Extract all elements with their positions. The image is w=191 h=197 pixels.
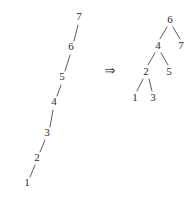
chain-node-1: 1 bbox=[24, 176, 30, 188]
chain-edge-2-3 bbox=[40, 140, 45, 152]
chain-node-6: 6 bbox=[68, 40, 74, 52]
tree-node-4: 4 bbox=[155, 39, 161, 51]
tree-edge-2-1 bbox=[137, 79, 143, 91]
tree-node-6: 6 bbox=[167, 13, 173, 25]
degenerate-chain-nodes: 1234567 bbox=[24, 10, 82, 188]
balanced-tree-nodes: 6472513 bbox=[132, 13, 184, 103]
chain-node-4: 4 bbox=[51, 95, 57, 107]
tree-node-3: 3 bbox=[150, 91, 156, 103]
tree-rebalancing-figure: 1234567 6472513 ⇒ bbox=[0, 0, 191, 197]
chain-edge-5-6 bbox=[65, 55, 70, 71]
chain-edge-4-5 bbox=[57, 85, 61, 96]
chain-node-7: 7 bbox=[76, 10, 82, 22]
tree-node-2: 2 bbox=[143, 65, 149, 77]
tree-edge-4-2 bbox=[148, 53, 155, 65]
chain-edge-1-2 bbox=[30, 165, 35, 177]
transform-operator: ⇒ bbox=[105, 63, 116, 78]
chain-edge-6-7 bbox=[74, 25, 78, 41]
figure-canvas: 1234567 6472513 ⇒ bbox=[0, 0, 191, 197]
tree-node-7: 7 bbox=[178, 39, 184, 51]
tree-edge-4-5 bbox=[161, 53, 168, 65]
tree-node-1: 1 bbox=[132, 91, 138, 103]
chain-node-3: 3 bbox=[44, 126, 50, 138]
tree-edge-2-3 bbox=[149, 79, 152, 91]
tree-edge-6-7 bbox=[173, 27, 180, 39]
tree-node-5: 5 bbox=[166, 65, 172, 77]
chain-node-5: 5 bbox=[59, 70, 65, 82]
chain-node-2: 2 bbox=[34, 151, 40, 163]
tree-edge-6-4 bbox=[160, 27, 167, 39]
balanced-tree-edges bbox=[137, 27, 180, 91]
chain-edge-3-4 bbox=[50, 110, 53, 127]
double-right-arrow: ⇒ bbox=[105, 63, 116, 78]
